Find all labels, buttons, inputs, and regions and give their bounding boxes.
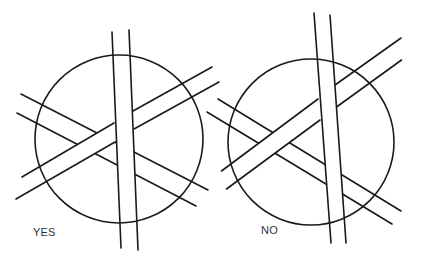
down-right-band xyxy=(17,94,208,206)
vertical-band xyxy=(314,13,346,243)
vertical-band xyxy=(112,30,138,250)
panel-yes xyxy=(16,30,219,250)
diagram-canvas xyxy=(0,0,423,262)
label-yes: YES xyxy=(33,226,56,238)
panel-no xyxy=(207,13,402,243)
label-no: NO xyxy=(261,224,278,236)
